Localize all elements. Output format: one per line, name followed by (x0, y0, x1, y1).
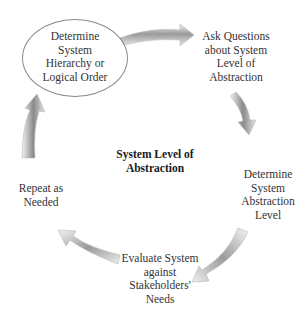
center-title-line-2: Abstraction (100, 161, 210, 175)
step-1-line-3: Hierarchy or (22, 57, 128, 71)
step-5-line-2: Needed (6, 196, 76, 210)
step-determine-abstraction-level: Determine System Abstraction Level (229, 168, 307, 222)
step-determine-hierarchy: Determine System Hierarchy or Logical Or… (22, 30, 128, 84)
step-4-line-4: Needs (110, 293, 210, 307)
step-3-line-1: Determine (229, 168, 307, 182)
step-1-line-2: System (22, 44, 128, 58)
step-1-line-1: Determine (22, 30, 128, 44)
step-4-line-3: Stakeholders' (110, 279, 210, 293)
step-3-line-3: Abstraction (229, 195, 307, 209)
step-1-line-4: Logical Order (22, 71, 128, 85)
arrow-step5-to-step1 (22, 94, 45, 158)
step-2-line-3: Level of (186, 57, 286, 71)
step-ask-questions: Ask Questions about System Level of Abst… (186, 30, 286, 84)
step-2-line-1: Ask Questions (186, 30, 286, 44)
step-4-line-2: against (110, 266, 210, 280)
step-3-line-4: Level (229, 209, 307, 223)
step-5-line-1: Repeat as (6, 182, 76, 196)
center-title-line-1: System Level of (100, 147, 210, 161)
step-repeat-as-needed: Repeat as Needed (6, 182, 76, 209)
center-title: System Level of Abstraction (100, 147, 210, 175)
arrow-step1-to-step2 (120, 24, 194, 46)
step-2-line-2: about System (186, 44, 286, 58)
step-3-line-2: System (229, 182, 307, 196)
step-4-line-1: Evaluate System (110, 252, 210, 266)
step-2-line-4: Abstraction (186, 71, 286, 85)
step-evaluate-system: Evaluate System against Stakeholders' Ne… (110, 252, 210, 306)
arrow-step2-to-step3 (230, 92, 256, 135)
